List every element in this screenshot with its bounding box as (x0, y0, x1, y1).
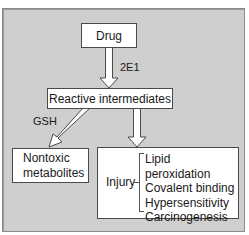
edge-label-gsh: GSH (33, 115, 57, 127)
injury-item: Hypersensitivity (145, 196, 238, 211)
node-reactive-label: Reactive intermediates (49, 92, 171, 106)
node-nontoxic-line2: metabolites (23, 166, 84, 181)
node-drug: Drug (81, 23, 137, 48)
node-reactive-intermediates: Reactive intermediates (47, 88, 173, 109)
injury-item: Lipid peroxidation (145, 152, 238, 181)
injury-item: Carcinogenesis (145, 210, 238, 225)
node-injury: Injury Lipid peroxidation Covalent bindi… (97, 147, 239, 219)
arrow-reactive-to-injury (128, 108, 146, 147)
injury-list: Lipid peroxidation Covalent binding Hype… (145, 152, 238, 225)
arrow-drug-to-reactive (100, 47, 118, 88)
injury-item: Covalent binding (145, 181, 238, 196)
arrow-reactive-to-nontoxic (49, 108, 90, 147)
node-nontoxic-line1: Nontoxic (23, 151, 70, 166)
node-drug-label: Drug (96, 29, 122, 43)
node-nontoxic-metabolites: Nontoxic metabolites (12, 148, 89, 183)
edge-label-2e1: 2E1 (120, 61, 140, 73)
injury-bracket (139, 153, 144, 212)
node-injury-label: Injury (106, 175, 135, 189)
